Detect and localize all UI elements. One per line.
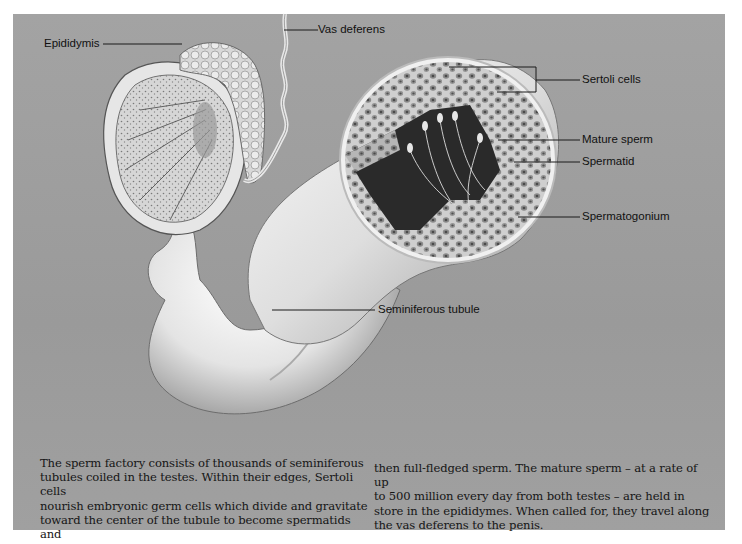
label-seminiferous-tubule: Seminiferous tubule [378,304,480,316]
caption-line: then full-fledged sperm. The mature sper… [374,461,714,489]
caption-line: nourish embryonic germ cells which divid… [40,499,370,513]
tubule-cross-section [340,57,556,263]
caption-line: store in the epididymes. When called for… [374,504,714,518]
caption-left-column: The sperm factory consists of thousands … [40,456,370,541]
label-sertoli-cells: Sertoli cells [582,74,641,86]
caption-line: the vas deferens to the penis. [374,518,714,532]
label-vas-deferens: Vas deferens [318,24,385,36]
caption-line: to 500 million every day from both teste… [374,489,714,503]
label-mature-sperm: Mature sperm [582,134,653,146]
caption-line: The sperm factory consists of thousands … [40,456,370,470]
label-spermatogonium: Spermatogonium [582,211,670,223]
testis-cross-section [104,62,246,235]
label-epididymis: Epididymis [44,38,100,50]
caption-line: toward the center of the tubule to becom… [40,513,370,541]
caption-line: tubules coiled in the testes. Within the… [40,470,370,498]
label-spermatid: Spermatid [582,156,634,168]
caption-right-column: then full-fledged sperm. The mature sper… [374,461,714,532]
